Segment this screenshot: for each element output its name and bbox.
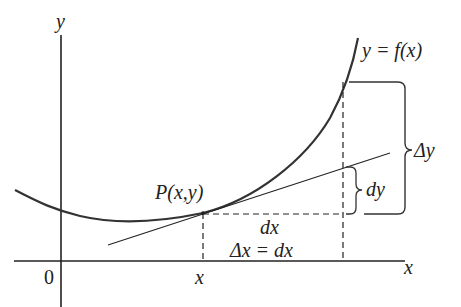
point-p (201, 211, 205, 215)
delta-y-label: Δy (413, 139, 435, 162)
dy-brace (346, 167, 362, 214)
y-axis-label: y (54, 10, 65, 33)
origin-label: 0 (44, 266, 54, 288)
differential-diagram: y x 0 x y = f(x) P(x,y) dx Δx = dx dy Δy (0, 0, 461, 307)
curve-label: y = f(x) (360, 39, 422, 62)
delta-x-label: Δx = dx (229, 239, 293, 261)
x-axis-label: x (403, 256, 413, 278)
dy-label: dy (366, 178, 385, 201)
dx-label: dx (260, 216, 279, 238)
point-p-label: P(x,y) (154, 181, 204, 204)
x-tick-label: x (194, 266, 204, 288)
